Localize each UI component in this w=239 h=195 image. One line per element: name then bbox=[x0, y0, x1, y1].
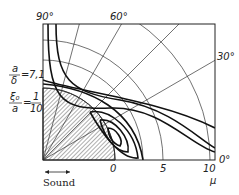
param1-value: 7,1 bbox=[29, 69, 45, 80]
param2-numerator: ξ₀ bbox=[9, 91, 20, 102]
sound-label: Sound bbox=[43, 177, 76, 188]
mu-axis-label: μ bbox=[209, 175, 216, 186]
param1-denominator: δ bbox=[11, 75, 17, 86]
param2-value-num: 1 bbox=[33, 91, 39, 102]
streamline-diagram: 90° 60° 30° 0° 0 5 10 μ a δ = 7,1 ξ₀ a =… bbox=[0, 0, 239, 195]
mu-tick-0: 0 bbox=[110, 163, 116, 174]
angle-label-90: 90° bbox=[36, 11, 54, 22]
mu-tick-10: 10 bbox=[203, 163, 216, 174]
angle-label-0: 0° bbox=[219, 154, 230, 165]
param1-numerator: a bbox=[12, 63, 18, 74]
angle-label-30: 30° bbox=[217, 51, 235, 62]
param2-value-den: 10 bbox=[30, 103, 43, 114]
angle-label-60: 60° bbox=[110, 11, 128, 22]
sound-arrow-icon bbox=[45, 170, 70, 174]
param2-denominator: a bbox=[12, 103, 18, 114]
mu-tick-5: 5 bbox=[160, 163, 166, 174]
